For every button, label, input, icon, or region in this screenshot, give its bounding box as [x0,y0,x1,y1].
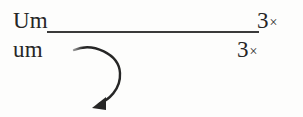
upper-word-label: Um [13,9,48,32]
upper-multiplier-number: 3 [257,8,269,33]
connector-rule [47,31,259,33]
upper-multiplier-label: 3× [257,9,277,32]
arrow-arc-path [74,47,120,104]
lower-multiplication-sign-icon: × [250,44,258,59]
upper-multiplication-sign-icon: × [270,15,278,30]
curved-clockwise-arrow-icon [60,40,140,117]
lower-multiplier-number: 3 [237,37,249,62]
lower-word-label: um [13,38,43,61]
figure-canvas: Um 3× um 3× [0,0,303,117]
lower-multiplier-label: 3× [237,38,257,61]
arrow-head [92,97,106,110]
